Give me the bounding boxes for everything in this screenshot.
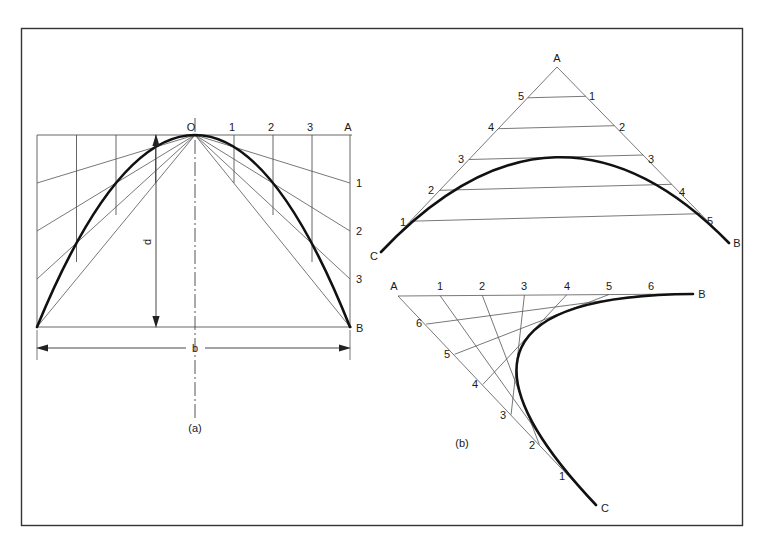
label-a-top-div-2: 2	[268, 121, 274, 133]
label-b-lower-side-3: 3	[500, 409, 506, 421]
parabola-curve-b-lower	[516, 294, 693, 505]
caption-b: (b)	[455, 437, 468, 449]
label-b-lower-top-2: 2	[479, 280, 485, 292]
label-b-upper-left-4: 4	[488, 121, 494, 133]
label-b-lower-top-3: 3	[521, 280, 527, 292]
tangent-chord-b-upper-5	[528, 96, 586, 98]
depth-arrow-down	[152, 316, 159, 328]
label-a-right-div-2: 2	[356, 225, 362, 237]
diagram-b-upper: A C B 1 2 3 4 5 1 2 3 4 5	[370, 52, 741, 262]
tangent-chord-b-upper-4	[498, 126, 614, 129]
label-a-right-div-1: 1	[356, 177, 362, 189]
ray-a-right-3	[195, 135, 350, 279]
label-b-lower-top-1: 1	[437, 280, 443, 292]
ray-a-right-4	[195, 135, 350, 327]
drawing-frame	[22, 29, 743, 526]
ray-a-right-1	[195, 135, 350, 183]
diagram-a: O 1 2 3 A 1 2 3 B d b (a)	[36, 118, 363, 434]
label-b-lower-side-2: 2	[529, 439, 535, 451]
width-arrow-right	[339, 344, 351, 351]
tangent-chord-b-lower-2	[482, 295, 539, 444]
label-b-upper-left-5: 5	[518, 90, 524, 102]
label-b-upper-apex: A	[553, 52, 561, 64]
label-b-upper-right-4: 4	[679, 186, 685, 198]
caption-a: (a)	[188, 422, 201, 434]
label-b-upper-left-1: 1	[400, 216, 406, 228]
label-b-lower-top-5: 5	[606, 280, 612, 292]
label-a-top-div-1: 1	[229, 121, 235, 133]
label-a-corner-a: A	[344, 121, 352, 133]
label-width-b: b	[192, 342, 198, 354]
diagram-b-lower: A B C 1 2 3 4 5 6 6 5 4 3 2 1 (b)	[390, 280, 705, 514]
label-b-upper-right-3: 3	[648, 153, 654, 165]
label-b-lower-side-1: 1	[559, 470, 565, 482]
label-depth-d: d	[141, 239, 153, 245]
parabola-curve-a	[37, 135, 350, 327]
label-a-corner-b: B	[356, 322, 363, 334]
label-b-lower-a: A	[390, 280, 398, 292]
label-b-upper-right-1: 1	[589, 90, 595, 102]
technical-drawing-canvas: O 1 2 3 A 1 2 3 B d b (a)	[0, 0, 773, 552]
label-b-lower-side-6: 6	[416, 317, 422, 329]
label-b-upper-left-2: 2	[428, 184, 434, 196]
label-b-lower-side-5: 5	[444, 348, 450, 360]
label-a-top-div-3: 3	[307, 121, 313, 133]
label-a-apex: O	[187, 121, 196, 133]
label-b-lower-c: C	[601, 502, 609, 514]
depth-arrow-up	[152, 134, 159, 146]
drawing-sheet: O 1 2 3 A 1 2 3 B d b (a)	[0, 0, 773, 552]
label-b-upper-c: C	[370, 250, 378, 262]
label-b-upper-left-3: 3	[458, 153, 464, 165]
label-b-lower-top-4: 4	[564, 280, 570, 292]
tangent-chord-b-lower-5	[455, 295, 609, 355]
label-b-upper-b: B	[733, 237, 740, 249]
parabola-curve-b-upper	[381, 157, 729, 252]
label-b-lower-top-6: 6	[648, 280, 654, 292]
leg-ac-b-lower	[398, 296, 596, 505]
tangent-chord-b-upper-1	[410, 214, 700, 222]
label-b-lower-b: B	[698, 288, 705, 300]
label-b-upper-right-2: 2	[619, 121, 625, 133]
label-b-upper-right-5: 5	[707, 215, 713, 227]
label-a-right-div-3: 3	[356, 273, 362, 285]
width-arrow-left	[36, 344, 48, 351]
label-b-lower-side-4: 4	[472, 378, 478, 390]
tangent-chord-b-upper-2	[440, 184, 672, 190]
